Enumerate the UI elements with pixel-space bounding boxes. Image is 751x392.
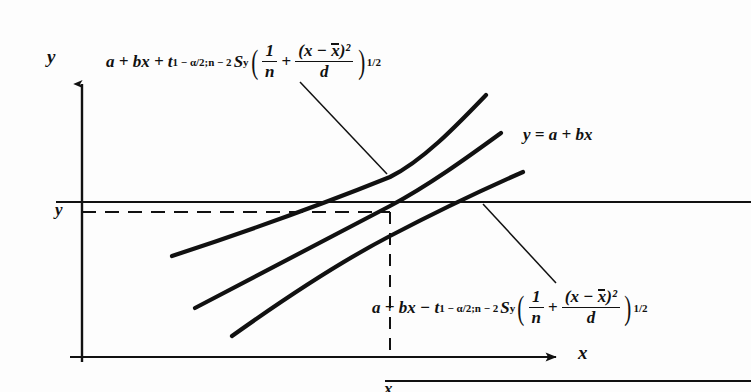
regression-label-text: y = a + bx xyxy=(523,125,592,144)
upper-frac2-numerator: (x − x)² xyxy=(295,42,353,62)
upper-frac1-numerator: 1 xyxy=(262,42,277,62)
upper-formula-sy-subscript: y xyxy=(243,56,249,68)
x-mean-tick-label: x xyxy=(384,379,751,392)
upper-band-leader-line xyxy=(300,82,387,174)
lower-formula-fraction-sq-over-d: (x − x)² d xyxy=(562,288,620,328)
upper-formula-plus: + xyxy=(279,52,293,72)
y-mean-overbar xyxy=(56,201,751,203)
lower-formula-t-subscript: 1 − α/2;n − 2 xyxy=(439,302,498,314)
y-axis-label: y xyxy=(47,46,55,68)
lower-frac1-numerator: 1 xyxy=(529,288,544,308)
upper-formula-t-subscript: 1 − α/2;n − 2 xyxy=(173,56,232,68)
lower-formula-sy: S xyxy=(500,298,509,318)
upper-formula-prefix: a + bx + t xyxy=(106,52,173,72)
upper-formula-sy: S xyxy=(234,52,243,72)
regression-line-label: y = a + bx xyxy=(523,125,592,145)
upper-formula-exponent: 1/2 xyxy=(367,56,381,68)
x-axis-label: x xyxy=(578,342,588,364)
lower-formula-right-paren: ) xyxy=(624,293,631,324)
upper-formula-fraction-one-over-n: 1 n xyxy=(262,42,277,82)
upper-frac2-denominator: d xyxy=(295,62,353,81)
upper-formula-left-paren: ( xyxy=(251,47,258,78)
lower-formula-left-paren: ( xyxy=(517,293,524,324)
upper-formula-right-paren: ) xyxy=(358,47,365,78)
lower-formula-sy-subscript: y xyxy=(510,302,516,314)
y-mean-tick-label: y xyxy=(55,200,751,220)
lower-formula-prefix: a + bx − t xyxy=(372,298,439,318)
regression-line-curve xyxy=(195,133,501,308)
upper-band-formula: a + bx + t 1 − α/2;n − 2 S y ( 1 n + (x … xyxy=(106,42,381,82)
x-mean-overbar xyxy=(385,380,751,382)
lower-formula-plus: + xyxy=(546,298,560,318)
lower-band-formula: a + bx − t 1 − α/2;n − 2 S y ( 1 n + (x … xyxy=(372,288,648,328)
upper-formula-fraction-sq-over-d: (x − x)² d xyxy=(295,42,353,82)
lower-frac2-numerator: (x − x)² xyxy=(562,288,620,308)
lower-frac1-denominator: n xyxy=(529,308,544,327)
regression-confidence-band-figure: y x y x a + bx + t 1 − α/2;n − 2 S y ( 1… xyxy=(0,0,751,392)
lower-formula-fraction-one-over-n: 1 n xyxy=(529,288,544,328)
lower-frac2-denominator: d xyxy=(562,308,620,327)
lower-formula-exponent: 1/2 xyxy=(633,302,647,314)
upper-frac1-denominator: n xyxy=(262,62,277,81)
